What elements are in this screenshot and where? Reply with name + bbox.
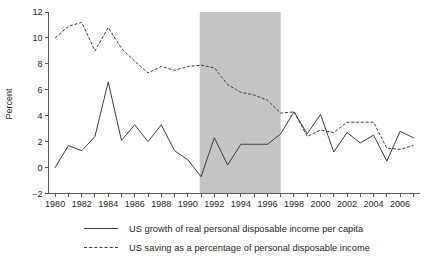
x-tick-label: 1994 <box>231 199 251 209</box>
shaded-region <box>200 12 281 194</box>
x-tick-label: 1982 <box>72 199 92 209</box>
y-tick-label: −2 <box>32 189 42 199</box>
x-tick-label: 2002 <box>337 199 357 209</box>
x-tick-label: 1998 <box>284 199 304 209</box>
y-tick-label: 2 <box>37 137 42 147</box>
x-tick-label: 1980 <box>45 199 65 209</box>
x-tick-label: 1996 <box>257 199 277 209</box>
y-axis-ticks: −2024681012 <box>32 7 48 199</box>
x-tick-label: 1986 <box>125 199 145 209</box>
x-tick-label: 1984 <box>98 199 118 209</box>
chart-figure: −2024681012 1980198219841986198819901992… <box>0 0 429 263</box>
y-axis-title: Percent <box>4 88 14 120</box>
y-tick-label: 4 <box>37 111 42 121</box>
y-tick-label: 6 <box>37 85 42 95</box>
x-tick-label: 1992 <box>204 199 224 209</box>
chart-legend: US growth of real personal disposable in… <box>0 219 429 263</box>
x-tick-label: 1988 <box>151 199 171 209</box>
legend-entry-growth: US growth of real personal disposable in… <box>0 219 429 238</box>
legend-label-growth: US growth of real personal disposable in… <box>129 224 363 234</box>
legend-swatch-dashed-icon <box>84 243 118 253</box>
x-tick-label: 1990 <box>178 199 198 209</box>
legend-swatch-solid-icon <box>84 224 118 234</box>
x-tick-label: 2006 <box>390 199 410 209</box>
y-tick-label: 0 <box>37 163 42 173</box>
y-tick-label: 10 <box>32 33 42 43</box>
x-tick-label: 2004 <box>364 199 384 209</box>
legend-label-saving: US saving as a percentage of personal di… <box>129 243 370 253</box>
x-tick-label: 2000 <box>310 199 330 209</box>
legend-entry-saving: US saving as a percentage of personal di… <box>0 238 429 257</box>
y-tick-label: 8 <box>37 59 42 69</box>
chart-plot-area: −2024681012 1980198219841986198819901992… <box>0 0 429 215</box>
x-axis-ticks: 1980198219841986198819901992199419961998… <box>45 194 413 210</box>
y-tick-label: 12 <box>32 7 42 17</box>
